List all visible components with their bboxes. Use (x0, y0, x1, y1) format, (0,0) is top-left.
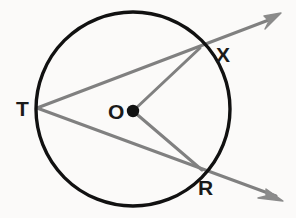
radius-O-R-line (133, 111, 202, 170)
geometry-diagram: T O X R (0, 0, 296, 218)
point-label-O: O (108, 101, 124, 122)
point-label-X: X (216, 44, 230, 65)
point-label-T: T (16, 98, 29, 119)
center-point-dot (127, 105, 139, 117)
point-label-R: R (198, 177, 213, 198)
geometry-canvas (0, 0, 296, 218)
ray-T-R-line (37, 108, 276, 196)
